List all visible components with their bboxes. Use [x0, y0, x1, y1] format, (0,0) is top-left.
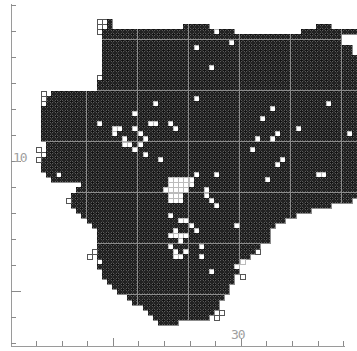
y-axis-label-10: 10 — [13, 150, 27, 165]
y-tick — [11, 187, 16, 188]
y-tick — [11, 109, 16, 110]
y-tick — [11, 57, 16, 58]
grid-cell-edge — [214, 315, 220, 321]
grid-cell-edge — [87, 254, 93, 260]
grid-cell — [204, 315, 210, 321]
grid-cell-edge — [66, 198, 72, 204]
x-tick — [138, 341, 139, 346]
y-tick — [11, 291, 21, 292]
x-tick — [318, 341, 319, 346]
y-tick — [11, 343, 16, 344]
grid-cell — [347, 198, 353, 204]
x-axis-label-30: 30 — [231, 327, 245, 342]
y-tick — [11, 239, 16, 240]
x-axis-line — [11, 346, 345, 347]
x-tick — [266, 341, 267, 346]
grid-cell — [280, 218, 286, 224]
grid-cell — [291, 213, 297, 219]
x-tick — [36, 341, 37, 346]
y-tick — [11, 317, 16, 318]
grid-cell-edge — [255, 249, 261, 255]
grid-cell — [173, 320, 179, 326]
y-tick — [11, 5, 16, 6]
x-tick — [87, 341, 88, 346]
grid-cell-edge — [240, 274, 246, 280]
y-axis-line — [11, 4, 12, 347]
x-tick — [190, 341, 191, 346]
x-tick — [113, 338, 114, 346]
x-tick — [292, 341, 293, 346]
y-tick — [11, 265, 16, 266]
grid-cell-empty — [240, 259, 246, 265]
grid-cell — [326, 203, 332, 209]
x-tick — [164, 341, 165, 346]
y-tick — [11, 31, 16, 32]
y-tick — [11, 83, 16, 84]
grid-cell — [265, 238, 271, 244]
grid-cell-edge — [36, 147, 42, 153]
x-tick — [343, 341, 344, 346]
x-tick — [62, 341, 63, 346]
y-tick — [11, 213, 16, 214]
grid-cell-edge — [41, 96, 47, 102]
y-tick — [11, 135, 16, 136]
grid-cell-edge — [36, 157, 42, 163]
grid-cell — [229, 279, 235, 285]
x-tick — [215, 341, 216, 346]
grid-cell — [306, 208, 312, 214]
raster-map-plot: 10 30 — [0, 0, 357, 351]
